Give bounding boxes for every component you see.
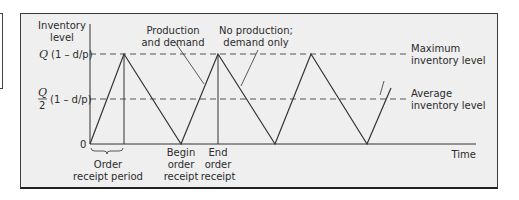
annotation-order-1: Order	[94, 159, 123, 170]
annotation-max-1: Maximum	[411, 43, 460, 54]
annotation-no-production-2: demand only	[223, 37, 288, 48]
annotation-avg-1: Average	[411, 88, 452, 99]
annotation-end-1: End	[208, 147, 227, 158]
annotation-max-2: inventory level	[411, 55, 486, 66]
annotation-avg-2: inventory level	[411, 100, 486, 111]
inventory-diagram: Inventory level Q (1 – d/p) Q 2 (1 – d/p…	[0, 0, 519, 200]
annotation-no-production-1: No production;	[219, 25, 293, 36]
annotation-begin-1: Begin	[167, 147, 195, 158]
y-max-q: Q	[39, 48, 48, 61]
leader-no-production	[241, 50, 258, 86]
annotation-begin-3: receipt	[164, 171, 199, 182]
annotation-end-3: receipt	[201, 171, 236, 182]
annotation-end-2: order	[205, 159, 233, 170]
y-avg-denominator: 2	[39, 100, 45, 111]
annotation-production-2: and demand	[141, 37, 204, 48]
y-axis-label-2: level	[50, 32, 74, 43]
y-max-factor: (1 – d/p)	[51, 49, 93, 60]
leader-average	[380, 81, 384, 95]
order-receipt-brace	[91, 148, 123, 154]
leader-production-demand	[175, 42, 204, 84]
x-axis-label: Time	[451, 149, 476, 160]
y-zero-label: 0	[80, 139, 86, 150]
annotation-production-1: Production	[146, 25, 199, 36]
annotation-begin-2: order	[168, 159, 196, 170]
y-avg-numerator: Q	[38, 86, 47, 99]
annotation-order-2: receipt period	[73, 171, 143, 182]
y-avg-factor: (1 – d/p)	[50, 94, 92, 105]
y-axis-label-1: Inventory	[38, 20, 86, 31]
